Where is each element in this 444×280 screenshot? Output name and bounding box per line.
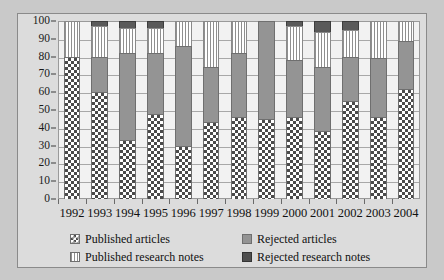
segment-rejected-research-notes — [147, 21, 164, 28]
chart-figure: 0102030405060708090100 19921993199419951… — [17, 13, 427, 268]
segment-published-articles — [286, 117, 303, 199]
y-axis-tick-mark — [51, 145, 56, 146]
gray-swatch — [242, 234, 252, 244]
segment-rejected-articles — [370, 58, 387, 117]
bar-column — [253, 21, 281, 199]
segment-published-articles — [258, 119, 275, 199]
bar-column — [86, 21, 114, 199]
segment-rejected-research-notes — [342, 21, 359, 30]
bar-column — [197, 21, 225, 199]
y-axis-tick-mark — [51, 199, 56, 200]
segment-published-articles — [203, 122, 220, 199]
stacked-bar — [370, 21, 387, 199]
y-axis-tick-mark — [51, 110, 56, 111]
dark-gray-swatch — [242, 252, 252, 262]
y-axis-tick-label: 90 — [39, 33, 51, 45]
stacked-bar — [398, 21, 415, 199]
segment-published-research-notes — [119, 28, 136, 53]
segment-rejected-articles — [314, 67, 331, 131]
chart-legend: Published articlesRejected articlesPubli… — [70, 230, 400, 266]
y-axis-tick-label: 10 — [39, 175, 51, 187]
y-axis: 0102030405060708090100 — [18, 21, 56, 199]
segment-published-research-notes — [314, 32, 331, 68]
segment-published-research-notes — [91, 26, 108, 56]
segment-published-research-notes — [286, 26, 303, 60]
stacked-bar — [258, 21, 275, 199]
bar-column — [225, 21, 253, 199]
segment-published-articles — [175, 146, 192, 199]
segment-rejected-articles — [119, 53, 136, 140]
segment-published-research-notes — [64, 21, 81, 57]
segment-published-research-notes — [147, 28, 164, 53]
y-axis-tick-mark — [51, 181, 56, 182]
stacked-bar — [175, 21, 192, 199]
y-axis-tick-mark — [51, 56, 56, 57]
y-axis-tick-label: 80 — [39, 51, 51, 63]
segment-published-research-notes — [231, 21, 248, 53]
y-axis-tick-label: 50 — [39, 104, 51, 116]
bar-column — [58, 21, 86, 199]
y-axis-tick-label: 0 — [44, 193, 50, 205]
x-axis-label: 1993 — [86, 204, 114, 223]
striped-swatch — [70, 252, 80, 262]
segment-published-research-notes — [203, 21, 220, 67]
stacked-bar — [64, 21, 81, 199]
segment-published-articles — [314, 131, 331, 199]
segment-published-articles — [398, 89, 415, 199]
x-axis-label: 2001 — [309, 204, 337, 223]
bar-column — [392, 21, 420, 199]
segment-rejected-articles — [286, 60, 303, 117]
segment-published-articles — [119, 140, 136, 199]
y-axis-tick-label: 60 — [39, 86, 51, 98]
legend-item: Published articles — [70, 232, 242, 247]
segment-published-articles — [91, 92, 108, 199]
segment-published-research-notes — [398, 21, 415, 41]
segment-published-articles — [231, 117, 248, 199]
x-axis-label: 2004 — [392, 204, 420, 223]
x-axis-label: 1992 — [58, 204, 86, 223]
bar-column — [114, 21, 142, 199]
legend-item: Published research notes — [70, 250, 242, 265]
y-axis-tick-mark — [51, 127, 56, 128]
segment-rejected-articles — [175, 46, 192, 146]
segment-rejected-research-notes — [314, 21, 331, 32]
y-axis-tick-mark — [51, 38, 56, 39]
y-axis-tick-mark — [51, 74, 56, 75]
legend-label: Published research notes — [85, 250, 204, 265]
legend-label: Rejected articles — [257, 232, 337, 247]
segment-published-research-notes — [370, 21, 387, 58]
bar-column — [281, 21, 309, 199]
stacked-bar — [314, 21, 331, 199]
stacked-bar — [231, 21, 248, 199]
segment-rejected-articles — [203, 67, 220, 122]
segment-published-research-notes — [175, 21, 192, 46]
bar-column — [169, 21, 197, 199]
segment-published-articles — [147, 114, 164, 199]
x-axis-label: 1995 — [142, 204, 170, 223]
legend-item: Rejected research notes — [242, 250, 400, 265]
segment-published-articles — [342, 101, 359, 199]
legend-label: Published articles — [85, 232, 170, 247]
stacked-bar — [203, 21, 220, 199]
stacked-bar — [286, 21, 303, 199]
x-axis-label: 2000 — [281, 204, 309, 223]
y-axis-tick-mark — [51, 163, 56, 164]
x-axis-label: 1997 — [197, 204, 225, 223]
x-axis: 1992199319941995199619971998199920002001… — [58, 199, 420, 225]
plot-area — [58, 21, 420, 199]
bar-group — [58, 21, 420, 199]
x-axis-label: 2003 — [364, 204, 392, 223]
legend-item: Rejected articles — [242, 232, 400, 247]
stacked-bar — [119, 21, 136, 199]
segment-rejected-articles — [147, 53, 164, 114]
segment-published-research-notes — [342, 30, 359, 57]
bar-column — [309, 21, 337, 199]
stacked-bar — [147, 21, 164, 199]
x-axis-label: 1996 — [169, 204, 197, 223]
bar-column — [364, 21, 392, 199]
segment-rejected-research-notes — [119, 21, 136, 28]
y-axis-tick-label: 70 — [39, 69, 51, 81]
segment-published-articles — [64, 57, 81, 199]
bar-column — [142, 21, 170, 199]
y-axis-tick-label: 20 — [39, 158, 51, 170]
